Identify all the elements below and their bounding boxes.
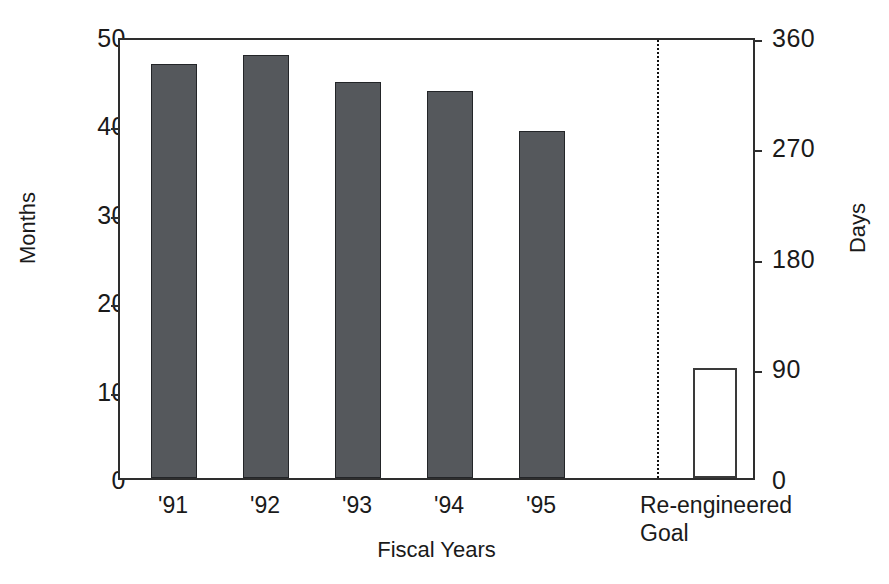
- y-axis-left-tick-30: [111, 217, 120, 219]
- y-axis-right-tick-90: [753, 371, 762, 373]
- x-axis-label-1992: '92: [225, 491, 305, 519]
- goal-separator-line: [657, 40, 659, 478]
- y-axis-right-tick-label: 0: [772, 468, 862, 493]
- y-axis-left-tick-label: 20: [46, 291, 126, 316]
- y-axis-right-tick-180: [753, 261, 762, 263]
- bar-1992: [243, 55, 289, 478]
- y-axis-right-tick-label: 90: [772, 357, 862, 382]
- bar-chart: 50 40 30 20 10 0 360 270 180 90 0 Months…: [0, 0, 889, 584]
- x-axis-label-1995: '95: [501, 491, 581, 519]
- y-axis-right-tick-270: [753, 150, 762, 152]
- y-axis-right-tick-label: 360: [772, 26, 862, 51]
- y-axis-left-tick-label: 40: [46, 114, 126, 139]
- x-axis-label-1993: '93: [317, 491, 397, 519]
- y-axis-left-tick-label: 50: [46, 26, 126, 51]
- y-axis-left-tick-label: 0: [46, 468, 126, 493]
- y-axis-left-tick-40: [111, 128, 120, 130]
- bar-1991: [151, 64, 197, 478]
- bar-1993: [335, 82, 381, 478]
- x-axis-label-1994: '94: [409, 491, 489, 519]
- plot-area: [118, 38, 755, 480]
- x-axis-label-1991: '91: [133, 491, 213, 519]
- bar-1994: [427, 91, 473, 478]
- y-axis-right-title: Days: [845, 143, 871, 313]
- bar-reengineered-goal: [693, 368, 737, 478]
- y-axis-left-tick-20: [111, 305, 120, 307]
- y-axis-left-tick-label: 10: [46, 380, 126, 405]
- y-axis-left-tick-label: 30: [46, 203, 126, 228]
- x-axis-label-reengineered-goal: Re-engineered Goal: [640, 491, 820, 547]
- y-axis-left-tick-10: [111, 394, 120, 396]
- y-axis-right-tick-360: [753, 40, 762, 42]
- bar-1995: [519, 131, 565, 478]
- y-axis-left-title: Months: [15, 143, 41, 313]
